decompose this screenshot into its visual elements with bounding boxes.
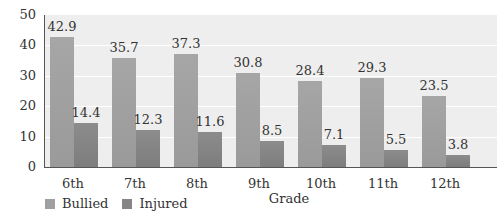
bar-bullied — [422, 96, 446, 167]
x-tick-label: 11th — [358, 176, 408, 191]
value-label: 30.8 — [228, 55, 268, 70]
bar-injured — [260, 141, 284, 167]
bar-injured — [446, 155, 470, 167]
x-tick-label: 8th — [172, 176, 222, 191]
x-tick-label: 10th — [296, 176, 346, 191]
legend: BulliedInjured — [45, 196, 202, 211]
y-tick-label: 50 — [0, 7, 36, 22]
bar-injured — [384, 150, 408, 167]
value-label: 8.5 — [252, 123, 292, 138]
legend-item-injured: Injured — [122, 196, 187, 211]
value-label: 29.3 — [352, 60, 392, 75]
y-tick-label: 10 — [0, 129, 36, 144]
value-label: 35.7 — [104, 40, 144, 55]
value-label: 12.3 — [128, 112, 168, 127]
legend-item-bullied: Bullied — [45, 196, 108, 211]
value-label: 3.8 — [438, 137, 478, 152]
plot-area: 42.914.435.712.337.311.630.88.528.47.129… — [44, 15, 497, 168]
bar-injured — [136, 130, 160, 167]
value-label: 42.9 — [42, 19, 82, 34]
value-label: 37.3 — [166, 36, 206, 51]
bar-injured — [322, 145, 346, 167]
x-tick-label: 12th — [420, 176, 470, 191]
x-tick-label: 6th — [48, 176, 98, 191]
value-label: 5.5 — [376, 132, 416, 147]
value-label: 7.1 — [314, 127, 354, 142]
x-axis-label: Grade — [259, 191, 319, 206]
x-tick-label: 7th — [110, 176, 160, 191]
bar-bullied — [50, 37, 74, 167]
y-tick-label: 40 — [0, 37, 36, 52]
y-tick-label: 30 — [0, 68, 36, 83]
legend-label: Bullied — [62, 196, 108, 211]
legend-swatch — [45, 199, 55, 209]
value-label: 14.4 — [66, 105, 106, 120]
legend-label: Injured — [139, 196, 187, 211]
bar-injured — [198, 132, 222, 167]
legend-swatch — [122, 199, 132, 209]
bar-bullied — [298, 81, 322, 167]
value-label: 23.5 — [414, 78, 454, 93]
value-label: 11.6 — [190, 114, 230, 129]
bar-bullied — [174, 54, 198, 167]
y-tick-label: 0 — [0, 159, 36, 174]
value-label: 28.4 — [290, 63, 330, 78]
y-tick-label: 20 — [0, 98, 36, 113]
bar-bullied — [360, 78, 384, 167]
x-tick-label: 9th — [234, 176, 284, 191]
bar-injured — [74, 123, 98, 167]
bar-bullied — [236, 73, 260, 167]
